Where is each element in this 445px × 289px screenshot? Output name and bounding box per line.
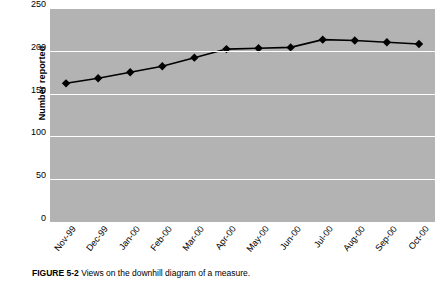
data-point-marker: [126, 68, 134, 76]
data-point-marker: [62, 79, 70, 87]
x-tick-label: Dec-99: [77, 224, 110, 262]
gridline: [50, 94, 435, 95]
data-point-marker: [351, 36, 359, 44]
x-tick-label: Jan-00: [110, 224, 143, 262]
plot-area: [50, 8, 435, 222]
y-axis-tick-labels: 050100150200250: [22, 4, 46, 222]
gridline: [50, 8, 435, 9]
x-tick-label: Apr-00: [206, 224, 239, 262]
x-tick-label: Mar-00: [174, 224, 207, 262]
line-series-svg: [50, 8, 435, 222]
y-tick-label: 200: [31, 43, 46, 52]
x-tick-label: May-00: [238, 224, 271, 262]
x-tick-label: Nov-99: [45, 224, 78, 262]
data-point-marker: [190, 53, 198, 61]
y-tick-label: 150: [31, 86, 46, 95]
x-tick-label: Aug-00: [334, 224, 367, 262]
gridline: [50, 179, 435, 180]
x-tick-label: Feb-00: [142, 224, 175, 262]
x-tick-label: Sep-00: [366, 224, 399, 262]
data-point-marker: [383, 38, 391, 46]
gridline: [50, 136, 435, 137]
x-axis-tick-labels: Nov-99Dec-99Jan-00Feb-00Mar-00Apr-00May-…: [50, 224, 435, 270]
x-tick-label: Jun-00: [270, 224, 303, 262]
y-tick-label: 50: [36, 171, 46, 180]
x-tick-label: Oct-00: [398, 224, 431, 262]
data-point-marker: [222, 45, 230, 53]
figure-caption-label: FIGURE 5-2: [32, 268, 79, 278]
y-tick-label: 100: [31, 128, 46, 137]
data-point-marker: [94, 74, 102, 82]
x-tick-label: Jul-00: [302, 224, 335, 262]
series-line: [66, 40, 419, 84]
data-point-marker: [415, 40, 423, 48]
figure-caption: FIGURE 5-2 Views on the downhill diagram…: [32, 268, 437, 278]
data-point-marker: [158, 62, 166, 70]
figure-caption-text: Views on the downhill diagram of a measu…: [81, 268, 250, 278]
y-tick-label: 250: [31, 0, 46, 9]
gridline: [50, 51, 435, 52]
data-point-marker: [319, 35, 327, 43]
figure-container: Number reported 050100150200250 Nov-99De…: [0, 0, 445, 289]
y-tick-label: 0: [41, 214, 46, 223]
